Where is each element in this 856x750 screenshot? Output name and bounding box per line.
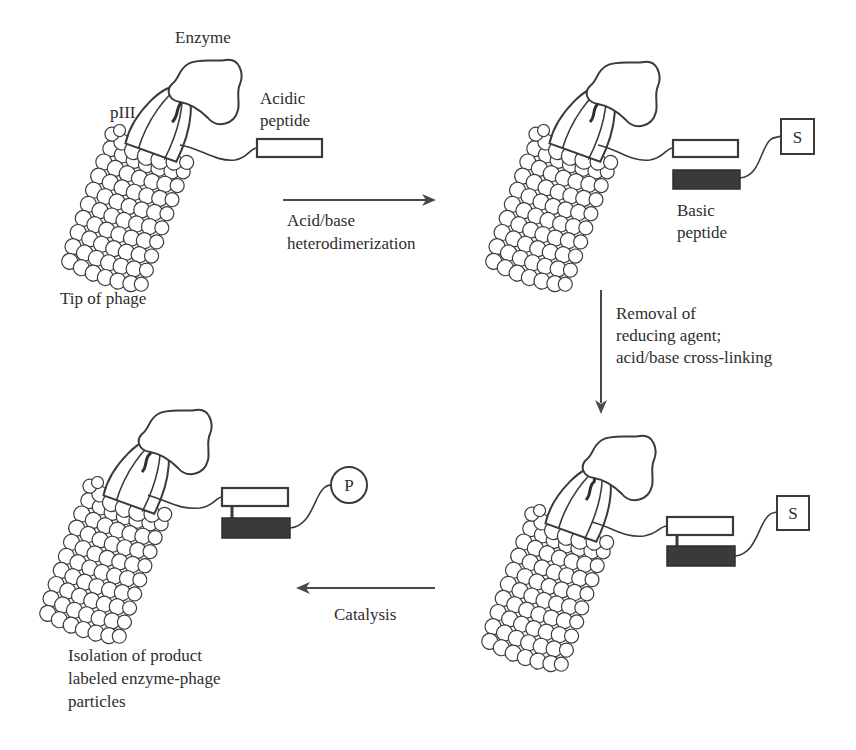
arrow-down (595, 290, 607, 414)
substrate-label: S (788, 504, 797, 523)
step1-label-line2: heterodimerization (287, 233, 415, 254)
isolation-caption-line1: Isolation of product (68, 645, 202, 666)
basic-peptide (222, 518, 290, 538)
acidic-peptide-label-line2: peptide (260, 110, 310, 131)
acidic-peptide (222, 488, 288, 506)
acidic-peptide (673, 140, 738, 157)
tip-of-phage-label: Tip of phage (60, 288, 146, 309)
panel-2: S (480, 62, 814, 300)
basic-peptide-label-line1: Basic (677, 200, 715, 221)
piii-label: pIII (110, 102, 135, 123)
step2-label-line2: reducing agent; (616, 325, 721, 346)
enzyme-label: Enzyme (175, 27, 231, 48)
arrow-left (296, 582, 435, 594)
basic-peptide (667, 546, 735, 566)
basic-peptide-label-line2: peptide (677, 222, 727, 243)
basic-peptide (673, 170, 740, 189)
product-label: P (344, 476, 353, 495)
panel-4: P (34, 410, 367, 652)
isolation-caption-line3: particles (68, 691, 126, 712)
step1-label-line1: Acid/base (287, 210, 355, 231)
step3-label: Catalysis (334, 604, 396, 625)
acidic-peptide (667, 517, 733, 535)
panel-3: S (476, 436, 809, 680)
step2-label-line1: Removal of (616, 303, 696, 324)
substrate-label: S (793, 128, 802, 147)
step2-label-line3: acid/base cross-linking (616, 347, 772, 368)
arrow-right (283, 194, 436, 206)
acidic-peptide (257, 139, 322, 157)
acidic-peptide-label-line1: Acidic (260, 88, 305, 109)
isolation-caption-line2: labeled enzyme-phage (68, 668, 220, 689)
